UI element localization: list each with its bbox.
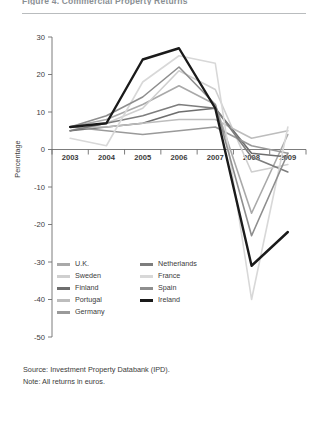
x-axis-tick-label: 2007 bbox=[207, 153, 224, 162]
legend-swatch-icon bbox=[57, 299, 70, 302]
y-axis-tick-label: 0 bbox=[41, 145, 45, 154]
legend-swatch-icon bbox=[140, 299, 153, 302]
y-axis-tick-label: -50 bbox=[34, 333, 45, 342]
units-note: Note: All returns in euros. bbox=[23, 376, 170, 388]
legend-item-netherlands: Netherlands bbox=[140, 258, 197, 270]
x-axis-tick-label: 2005 bbox=[134, 153, 152, 162]
legend-column-left: U.K.SwedenFinlandPortugalGermany bbox=[57, 258, 105, 318]
legend-item-spain: Spain bbox=[140, 282, 197, 294]
y-axis-title: Percentage bbox=[13, 140, 22, 177]
y-axis-tick-label: -10 bbox=[34, 183, 45, 192]
legend-item-ireland: Ireland bbox=[140, 294, 197, 306]
legend-label: Netherlands bbox=[158, 258, 197, 270]
legend-swatch-icon bbox=[140, 275, 153, 278]
legend-item-u-k: U.K. bbox=[57, 258, 105, 270]
legend-swatch-icon bbox=[57, 311, 70, 314]
line-chart: 3020100-10-20-30-40-50Percentage20032004… bbox=[0, 20, 328, 360]
legend-swatch-icon bbox=[140, 263, 153, 266]
x-axis-tick-label: 2006 bbox=[171, 153, 188, 162]
legend-label: Sweden bbox=[75, 270, 101, 282]
x-axis-tick-label: 2003 bbox=[62, 153, 79, 162]
legend-label: Spain bbox=[158, 282, 176, 294]
legend-swatch-icon bbox=[57, 275, 70, 278]
legend-swatch-icon bbox=[57, 263, 70, 266]
legend-label: U.K. bbox=[75, 258, 89, 270]
y-axis-tick-label: 20 bbox=[37, 70, 45, 79]
legend-label: Germany bbox=[75, 306, 105, 318]
legend-label: France bbox=[158, 270, 180, 282]
y-axis-tick-label: 10 bbox=[37, 108, 45, 117]
series-line-spain bbox=[70, 67, 288, 236]
legend-swatch-icon bbox=[140, 287, 153, 290]
legend-swatch-icon bbox=[57, 287, 70, 290]
x-axis-tick-label: 2004 bbox=[98, 153, 116, 162]
chart-plot-area: 3020100-10-20-30-40-50Percentage20032004… bbox=[0, 20, 328, 360]
legend-item-france: France bbox=[140, 270, 197, 282]
legend-label: Ireland bbox=[158, 294, 180, 306]
legend-column-right: NetherlandsFranceSpainIreland bbox=[140, 258, 197, 306]
figure-notes: Source: Investment Property Databank (IP… bbox=[23, 364, 170, 387]
header-divider bbox=[22, 13, 306, 14]
y-axis-tick-label: 30 bbox=[37, 33, 45, 42]
legend-item-germany: Germany bbox=[57, 306, 105, 318]
y-axis-tick-label: -20 bbox=[34, 220, 45, 229]
page-title: Figure 4. Commercial Property Returns bbox=[22, 0, 188, 5]
legend-item-sweden: Sweden bbox=[57, 270, 105, 282]
legend-label: Portugal bbox=[75, 294, 102, 306]
legend-item-portugal: Portugal bbox=[57, 294, 105, 306]
y-axis-tick-label: -30 bbox=[34, 258, 45, 267]
series-line-portugal bbox=[70, 120, 288, 139]
y-axis-tick-label: -40 bbox=[34, 295, 45, 304]
legend-item-finland: Finland bbox=[57, 282, 105, 294]
source-note: Source: Investment Property Databank (IP… bbox=[23, 364, 170, 376]
legend-label: Finland bbox=[75, 282, 99, 294]
figure-page: Figure 4. Commercial Property Returns 30… bbox=[0, 0, 328, 422]
